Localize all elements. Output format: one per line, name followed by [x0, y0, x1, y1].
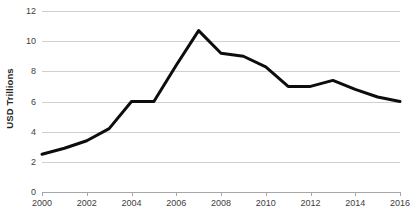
y-axis-tick-label: 4 [31, 127, 36, 137]
y-axis-title: USD Trillions [0, 0, 18, 196]
y-axis-tick-label: 8 [31, 66, 36, 76]
plot-area: 024681012 200020022004200620082010201220… [42, 11, 400, 192]
x-axis-tick-label: 2012 [300, 198, 320, 208]
x-axis-tick-mark [176, 192, 177, 196]
y-axis-tick-label: 6 [31, 97, 36, 107]
y-axis-tick-label: 10 [26, 36, 36, 46]
x-axis-tick-mark [311, 192, 312, 196]
x-axis-tick-label: 2004 [121, 198, 141, 208]
x-axis-tick-mark [221, 192, 222, 196]
x-axis-tick-label: 2000 [32, 198, 52, 208]
series-polyline [42, 31, 400, 155]
y-axis-tick-label: 12 [26, 6, 36, 16]
x-axis-tick-label: 2010 [256, 198, 276, 208]
x-axis-tick-mark [400, 192, 401, 196]
x-axis-tick-mark [355, 192, 356, 196]
x-axis-tick-label: 2006 [166, 198, 186, 208]
series-line [42, 11, 400, 192]
x-axis-tick-mark [87, 192, 88, 196]
x-axis-tick-label: 2016 [390, 198, 410, 208]
x-axis-tick-mark [132, 192, 133, 196]
x-axis-tick-label: 2008 [211, 198, 231, 208]
y-axis-tick-label: 2 [31, 157, 36, 167]
y-axis-tick-label: 0 [31, 187, 36, 197]
x-axis-tick-label: 2002 [77, 198, 97, 208]
line-chart: USD Trillions 024681012 2000200220042006… [0, 0, 418, 224]
x-axis-tick-mark [266, 192, 267, 196]
y-axis-title-label: USD Trillions [4, 68, 15, 128]
x-axis-tick-label: 2014 [345, 198, 365, 208]
x-axis-tick-mark [42, 192, 43, 196]
